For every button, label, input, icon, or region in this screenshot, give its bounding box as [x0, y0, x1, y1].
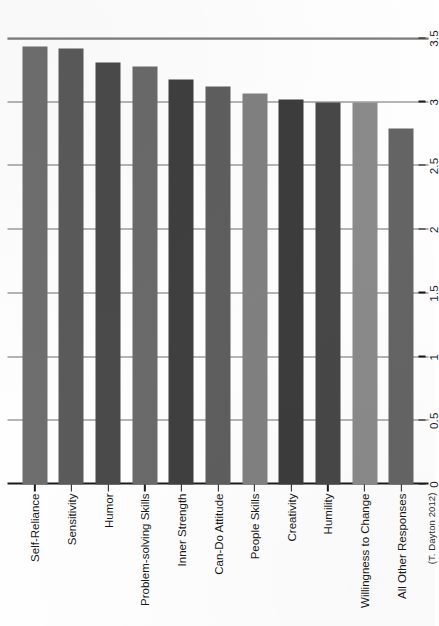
category-label: Humor [102, 484, 114, 528]
category-label: Self-Reliance [28, 484, 40, 561]
bar [132, 66, 157, 484]
axis-tick-mark [418, 100, 425, 101]
bar [22, 46, 47, 484]
axis-tick-label: 1 [427, 353, 439, 360]
axis-tick-mark [418, 37, 425, 38]
axis-tick-mark [418, 419, 425, 420]
category-label: Can-Do Attitude [212, 484, 224, 574]
axis-tick-mark [418, 291, 425, 292]
category-label: Humility [321, 484, 333, 534]
axis-tick-mark [418, 483, 425, 484]
bar [388, 128, 413, 484]
bar [168, 79, 193, 484]
category-label: Creativity [285, 484, 297, 541]
axis-tick-mark [418, 355, 425, 356]
chart-credit: (T. Dayton 2012) [425, 492, 436, 612]
category-label: Inner Strength [175, 484, 187, 566]
axis-tick-label: 2.5 [427, 157, 439, 174]
axis-tick-label: 3 [427, 98, 439, 105]
bar [242, 93, 267, 484]
bar [352, 102, 377, 484]
axis-tick-label: 2 [427, 226, 439, 233]
bar [205, 86, 230, 484]
axis-tick-label: 3.5 [427, 30, 439, 47]
bar [278, 99, 303, 484]
bar [58, 48, 83, 484]
axis-tick-label: 0 [427, 481, 439, 488]
category-label: Willingness to Change [358, 484, 370, 607]
axis-tick-mark [418, 164, 425, 165]
bar-series [16, 38, 419, 484]
axis-tick-mark [418, 228, 425, 229]
axis-tick-label: 0.5 [427, 412, 439, 429]
axis-tick-label: 1.5 [427, 285, 439, 302]
plot-area: 00.511.522.533.5 Self-RelianceSensitivit… [16, 38, 419, 484]
category-label: Sensitivity [65, 484, 77, 545]
category-label: Problem-solving Skills [138, 484, 150, 605]
bar [95, 62, 120, 484]
bar [315, 102, 340, 484]
category-label: People Skills [248, 484, 260, 559]
category-label: All Other Responses [395, 484, 407, 598]
